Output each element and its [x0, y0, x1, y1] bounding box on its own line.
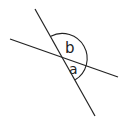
- angle-label-a: a: [69, 61, 78, 77]
- line-shallow: [10, 39, 118, 77]
- line-steep: [35, 9, 95, 116]
- angle-diagram: b a: [0, 0, 124, 121]
- angle-label-b: b: [65, 39, 75, 57]
